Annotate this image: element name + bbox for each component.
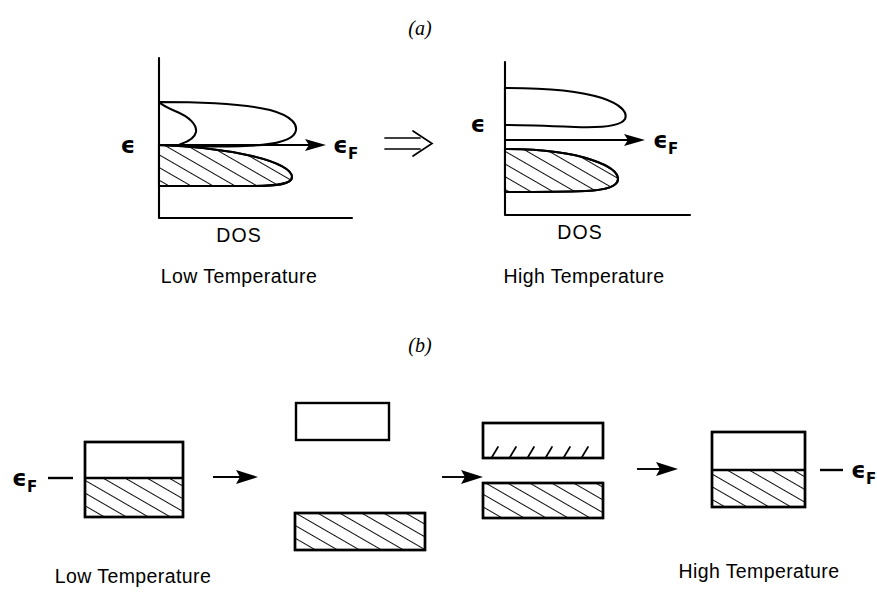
panel-b-left-fermi-label: ϵ — [12, 465, 27, 491]
right-plot-occupied-lobe — [500, 144, 630, 198]
panel-a-letter: (a) — [408, 17, 432, 40]
left-plot-unoccupied-lobe — [159, 102, 296, 146]
panel-b-arrow-3 — [637, 462, 678, 476]
right-plot-x-axis-label: DOS — [557, 221, 603, 243]
panel-b-stage-4-merged-band: ϵ F High Temperature — [678, 432, 876, 582]
panel-b-stage-3-partial-transfer — [483, 423, 603, 518]
right-plot-caption: High Temperature — [503, 265, 664, 287]
panel-b-left-caption: Low Temperature — [55, 565, 211, 587]
right-plot-fermi-label: ϵ — [653, 127, 668, 153]
stage-4-occupied-fill — [712, 470, 805, 507]
panel-b-stage-1-single-band: ϵ F Low Temperature — [12, 442, 211, 587]
panel-b-letter: (b) — [408, 334, 432, 357]
panel-a-left-plot: ϵ ϵ F DOS Low Temperature — [121, 58, 359, 287]
panel-a-transition-arrow — [385, 131, 432, 156]
dos-band-filling-figure: (a) ϵ ϵ F DOS Lo — [0, 0, 877, 601]
stage-3-occupied-fill — [483, 483, 603, 518]
panel-b-arrow-2 — [442, 470, 483, 484]
panel-b-left-fermi-subscript: F — [27, 478, 37, 496]
figure-root: (a) ϵ ϵ F DOS Lo — [0, 0, 877, 601]
left-plot-occupied-lobe — [155, 140, 300, 192]
right-plot-hatch-fill — [500, 144, 630, 198]
panel-b-right-fermi-label: ϵ — [851, 457, 866, 483]
panel-b-stage-2-split-bands — [295, 403, 425, 550]
right-plot-unoccupied-lobe — [505, 88, 626, 127]
right-plot-energy-label: ϵ — [471, 111, 486, 137]
stage-2-occupied-fill — [295, 513, 425, 550]
stage-1-occupied-fill — [85, 478, 183, 517]
panel-b-arrow-1 — [213, 470, 258, 484]
panel-a-right-plot: ϵ ϵ F DOS High Temperature — [471, 62, 690, 287]
left-plot-fermi-label: ϵ — [333, 132, 348, 158]
left-plot-x-axis-label: DOS — [216, 224, 262, 246]
panel-b-right-fermi-subscript: F — [866, 470, 876, 488]
left-plot-energy-label: ϵ — [121, 132, 136, 158]
stage-2-upper-empty-box — [296, 403, 389, 440]
left-plot-fermi-subscript: F — [348, 145, 358, 163]
left-plot-caption: Low Temperature — [161, 265, 317, 287]
panel-b-right-caption: High Temperature — [678, 560, 839, 582]
right-plot-fermi-subscript: F — [668, 140, 678, 158]
